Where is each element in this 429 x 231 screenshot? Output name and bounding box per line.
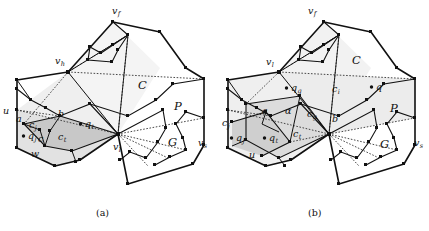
label-text-c: c xyxy=(38,133,44,144)
label-text-u: u xyxy=(249,149,255,160)
caption-a: (a) xyxy=(96,207,109,218)
label-sub-q-t: t xyxy=(275,137,278,145)
label-text-C: C xyxy=(138,78,147,92)
label-sub-v-s: s xyxy=(204,142,208,150)
label-text-w: w xyxy=(31,148,39,159)
label-b-P: P xyxy=(389,101,398,115)
label-a-v-f: vf xyxy=(112,5,122,18)
label-sub-c-j: j xyxy=(226,122,230,130)
label-a-w: w xyxy=(31,148,39,159)
panel-b xyxy=(226,20,416,185)
label-b-b: b xyxy=(332,113,338,124)
label-text-C: C xyxy=(352,53,361,67)
point-marker-q-t xyxy=(79,122,82,125)
label-sub-v-f: f xyxy=(117,10,122,18)
label-sub-c-i: i xyxy=(338,88,340,96)
caption-b: (b) xyxy=(308,207,322,218)
label-sub-c-t: t xyxy=(64,136,67,144)
label-a-v-h: vh xyxy=(55,55,65,68)
geometry-figure: vfvhvlvsuabccjctqjqtwCPGvfvlvsuabαcjcgct… xyxy=(0,0,429,231)
label-b-G: G xyxy=(380,137,389,151)
label-a-P: P xyxy=(173,99,182,113)
label-b-C: C xyxy=(352,53,361,67)
label-a-G: G xyxy=(168,135,177,149)
label-sub-c-t: t xyxy=(299,133,302,141)
label-text-q: q xyxy=(376,81,382,92)
label-b-a: a xyxy=(262,105,268,116)
label-text-G: G xyxy=(168,135,177,149)
label-text-a: a xyxy=(16,113,22,124)
point-marker-q-t xyxy=(263,136,266,139)
figure-container: vfvhvlvsuabccjctqjqtwCPGvfvlvsuabαcjcgct… xyxy=(0,0,429,231)
label-sub-q-t: t xyxy=(91,123,94,131)
label-sub-q-g: g xyxy=(297,87,301,95)
label-a-b: b xyxy=(58,108,64,119)
label-text-v-l: vl xyxy=(266,56,274,69)
label-a-C: C xyxy=(138,78,147,92)
label-text-P: P xyxy=(173,99,182,113)
label-text-v-s: vs xyxy=(414,137,424,150)
label-b-v-f: vf xyxy=(308,5,318,18)
label-sub-v-l: l xyxy=(272,61,274,69)
label-b-alpha: α xyxy=(285,105,292,116)
label-b-v-s: vs xyxy=(414,137,424,150)
label-sub-v-l: l xyxy=(119,146,121,154)
label-a-a: a xyxy=(16,113,22,124)
label-text-alpha: α xyxy=(285,105,292,116)
label-a-u: u xyxy=(3,105,9,116)
label-text-G: G xyxy=(380,137,389,151)
label-text-v-f: vf xyxy=(308,5,318,18)
label-text-v-f: vf xyxy=(112,5,122,18)
point-marker-q-g xyxy=(285,86,288,89)
label-sub-v-h: h xyxy=(61,60,65,68)
point-marker-q-j xyxy=(230,136,233,139)
label-text-u: u xyxy=(3,105,9,116)
label-text-P: P xyxy=(389,101,398,115)
label-sub-v-s: s xyxy=(420,142,424,150)
label-sub-v-f: f xyxy=(313,10,318,18)
point-marker-q-j xyxy=(22,134,25,137)
label-b-v-l: vl xyxy=(266,56,274,69)
label-text-b: b xyxy=(58,108,64,119)
label-sub-c-g: g xyxy=(313,113,317,121)
point-marker-q xyxy=(370,85,373,88)
label-text-b: b xyxy=(332,113,338,124)
label-b-u: u xyxy=(249,149,255,160)
label-text-a: a xyxy=(262,105,268,116)
label-a-c: c xyxy=(38,133,44,144)
label-text-v-h: vh xyxy=(55,55,65,68)
